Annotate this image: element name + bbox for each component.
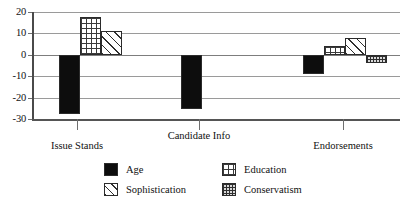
legend-entry: Age xyxy=(104,163,144,176)
bar xyxy=(345,38,366,55)
y-axis-tick-label: -30 xyxy=(0,114,26,124)
x-axis-category-label: Issue Stands xyxy=(27,140,127,151)
gridline xyxy=(32,12,400,13)
y-axis-tick-label: 0 xyxy=(0,50,26,60)
legend-swatch-icon xyxy=(104,183,118,196)
legend-label: Conservatism xyxy=(244,184,302,195)
legend-entry: Education xyxy=(222,163,287,176)
x-axis-tick-mark xyxy=(199,119,200,130)
legend-label: Sophistication xyxy=(126,184,186,195)
bar xyxy=(181,55,202,110)
legend-entry: Sophistication xyxy=(104,183,186,196)
legend-label: Education xyxy=(244,164,287,175)
x-axis-category-label: Candidate Info xyxy=(149,130,249,141)
bar-chart: 20100-10-20-30 Issue StandsCandidate Inf… xyxy=(0,0,408,205)
gridline xyxy=(32,76,400,77)
y-axis-tick-label: 10 xyxy=(0,28,26,38)
bar xyxy=(59,55,80,114)
y-axis-line xyxy=(32,12,34,119)
x-axis-category-label: Endorsements xyxy=(293,140,393,151)
bar xyxy=(101,31,122,55)
gridline xyxy=(32,98,400,99)
bar xyxy=(303,55,324,74)
gridline xyxy=(32,119,400,121)
y-axis-tick-label: -20 xyxy=(0,93,26,103)
bar xyxy=(80,17,101,54)
bar xyxy=(324,46,345,55)
y-axis-tick-label: -10 xyxy=(0,71,26,81)
legend-swatch-icon xyxy=(222,183,236,196)
chart-legend: AgeEducationSophisticationConservatism xyxy=(104,163,314,201)
legend-swatch-icon xyxy=(104,163,118,176)
legend-entry: Conservatism xyxy=(222,183,302,196)
x-axis-tick-mark xyxy=(77,119,78,130)
zero-gridline xyxy=(32,55,400,56)
y-axis-tick-label: 20 xyxy=(0,7,26,17)
plot-area: 20100-10-20-30 Issue StandsCandidate Inf… xyxy=(0,0,408,140)
legend-label: Age xyxy=(126,164,144,175)
bar xyxy=(366,55,387,64)
x-axis-tick-mark xyxy=(343,119,344,130)
legend-swatch-icon xyxy=(222,163,236,176)
